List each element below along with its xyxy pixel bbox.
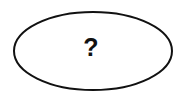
ellipse-label: ?: [83, 33, 98, 61]
diagram-svg: ?: [0, 0, 184, 98]
diagram-canvas: ?: [0, 0, 184, 98]
